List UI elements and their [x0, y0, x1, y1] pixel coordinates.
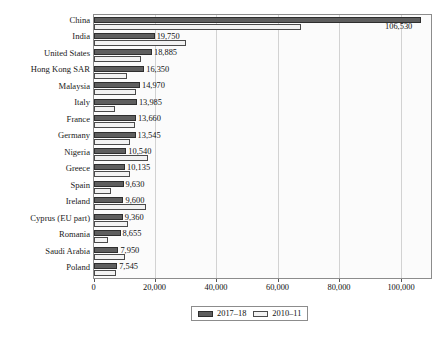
category-label-china: China: [0, 16, 90, 25]
tick-mark-40000: [216, 279, 217, 282]
legend-entry-2010-11[interactable]: 2010–11: [253, 309, 301, 318]
bar-value-label-spain: 9,630: [126, 180, 145, 189]
bar-hong-kong-sar-2017-18: [94, 66, 144, 72]
bar-italy-2010-11: [94, 106, 115, 112]
category-label-spain: Spain: [0, 181, 90, 190]
bar-india-2017-18: [94, 33, 155, 39]
tick-mark-80000: [339, 279, 340, 282]
bar-value-label-hong-kong-sar: 16,350: [146, 65, 169, 74]
bar-china-2017-18: [94, 17, 421, 23]
category-label-malaysia: Malaysia: [0, 82, 90, 91]
tick-label-20000: 20,000: [143, 283, 166, 293]
bar-nigeria-2017-18: [94, 148, 126, 154]
bar-value-label-greece: 10,135: [127, 163, 150, 172]
bar-value-label-france: 13,660: [138, 114, 161, 123]
legend-label-2010-11: 2010–11: [272, 309, 301, 318]
tick-label-60000: 60,000: [266, 283, 289, 293]
bars-layer: 106,53019,75018,88516,35014,97013,98513,…: [94, 15, 431, 278]
bar-value-label-cyprus-eu-part: 9,360: [125, 213, 144, 222]
bar-romania-2017-18: [94, 230, 121, 236]
tick-label-0: 0: [91, 283, 95, 293]
chart-legend: 2017–18 2010–11: [191, 306, 308, 321]
chart-page: China India United States Hong Kong SAR …: [0, 0, 444, 339]
dark-gray-swatch-icon: [198, 311, 213, 317]
bar-spain-2010-11: [94, 188, 111, 194]
bar-romania-2010-11: [94, 237, 108, 243]
category-label-greece: Greece: [0, 164, 90, 173]
category-label-ireland: Ireland: [0, 197, 90, 206]
bar-value-label-saudi-arabia: 7,950: [120, 246, 139, 255]
tick-mark-100000: [401, 279, 402, 282]
tick-label-100000: 100,000: [387, 283, 414, 293]
legend-label-2017-18: 2017–18: [217, 309, 246, 318]
bar-value-label-malaysia: 14,970: [142, 81, 165, 90]
bar-value-label-united-states: 18,885: [154, 48, 177, 57]
bar-value-label-poland: 7,545: [119, 262, 138, 271]
bar-value-label-india: 19,750: [157, 32, 180, 41]
legend-entry-2017-18[interactable]: 2017–18: [198, 309, 246, 318]
bar-united-states-2017-18: [94, 49, 152, 55]
bar-germany-2017-18: [94, 132, 136, 138]
bar-united-states-2010-11: [94, 56, 141, 62]
bar-greece-2010-11: [94, 171, 130, 177]
category-label-italy: Italy: [0, 98, 90, 107]
bar-france-2010-11: [94, 122, 135, 128]
category-axis: China India United States Hong Kong SAR …: [0, 14, 90, 279]
bar-value-label-ireland: 9,600: [125, 196, 144, 205]
bar-cyprus-eu-part-2010-11: [94, 221, 128, 227]
category-label-nigeria: Nigeria: [0, 148, 90, 157]
bar-ireland-2017-18: [94, 197, 123, 203]
category-label-india: India: [0, 32, 90, 41]
bar-value-label-nigeria: 10,540: [128, 147, 151, 156]
category-label-poland: Poland: [0, 263, 90, 272]
bar-hong-kong-sar-2010-11: [94, 73, 127, 79]
bar-germany-2010-11: [94, 139, 130, 145]
bar-value-label-germany: 13,545: [138, 131, 161, 140]
bar-malaysia-2010-11: [94, 89, 136, 95]
bar-greece-2017-18: [94, 164, 125, 170]
bar-poland-2017-18: [94, 263, 117, 269]
tick-label-40000: 40,000: [204, 283, 227, 293]
bar-saudi-arabia-2017-18: [94, 247, 118, 253]
category-label-germany: Germany: [0, 131, 90, 140]
bar-value-label-italy: 13,985: [139, 98, 162, 107]
tick-label-80000: 80,000: [327, 283, 350, 293]
category-label-cyprus: Cyprus (EU part): [0, 214, 90, 223]
tick-mark-60000: [278, 279, 279, 282]
value-axis: 0 20,000 40,000 60,000 80,000 100,000: [93, 279, 432, 297]
category-label-romania: Romania: [0, 230, 90, 239]
category-label-hong-kong-sar: Hong Kong SAR: [0, 65, 90, 74]
light-gray-swatch-icon: [253, 311, 268, 317]
bar-poland-2010-11: [94, 270, 116, 276]
bar-value-label-romania: 8,655: [123, 229, 142, 238]
bar-spain-2017-18: [94, 181, 124, 187]
category-label-france: France: [0, 115, 90, 124]
category-label-united-states: United States: [0, 49, 90, 58]
category-label-saudi-arabia: Saudi Arabia: [0, 247, 90, 256]
tick-mark-20000: [155, 279, 156, 282]
bar-value-label-china: 106,530: [385, 22, 412, 31]
tick-mark-0: [94, 279, 95, 282]
bar-france-2017-18: [94, 115, 136, 121]
bar-cyprus-eu-part-2017-18: [94, 214, 123, 220]
bar-italy-2017-18: [94, 99, 137, 105]
bar-china-2010-11: [94, 24, 301, 30]
bar-malaysia-2017-18: [94, 82, 140, 88]
